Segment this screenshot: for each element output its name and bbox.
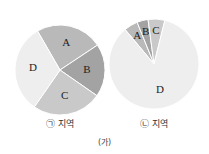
figure-label: (가) bbox=[98, 136, 111, 147]
pie-caption-region-a: ㉠ 지역 bbox=[46, 117, 74, 130]
pie-graphic: ABCD bbox=[14, 24, 106, 116]
slice-label-c: C bbox=[61, 89, 68, 101]
pie-chart-region-b: ABCD bbox=[108, 18, 200, 110]
pie-graphic: ABCD bbox=[108, 18, 200, 110]
slice-label-d: D bbox=[29, 61, 37, 73]
slice-label-d: D bbox=[156, 83, 164, 95]
slice-label-c: C bbox=[152, 24, 159, 36]
slice-label-b: B bbox=[83, 63, 90, 75]
pie-caption-region-b: ㉡ 지역 bbox=[140, 117, 168, 130]
slice-label-b: B bbox=[142, 25, 149, 37]
slice-label-a: A bbox=[62, 36, 70, 48]
pie-chart-region-a: ABCD bbox=[14, 24, 106, 116]
